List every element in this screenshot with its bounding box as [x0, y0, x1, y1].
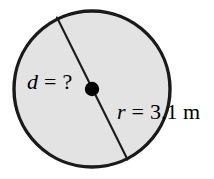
radius-variable: r	[117, 99, 126, 124]
circle-diagram-figure: d = ? r = 3.1 m	[0, 0, 214, 179]
radius-unit: m	[183, 99, 200, 124]
center-point-dot	[85, 82, 99, 96]
radius-equals-sign: =	[132, 99, 144, 124]
radius-label: r = 3.1 m	[117, 101, 200, 123]
radius-value: 3.1	[150, 99, 178, 124]
diameter-value: ?	[62, 69, 72, 94]
diameter-equals-sign: =	[44, 69, 56, 94]
diameter-label: d = ?	[27, 71, 72, 93]
diameter-variable: d	[27, 69, 38, 94]
